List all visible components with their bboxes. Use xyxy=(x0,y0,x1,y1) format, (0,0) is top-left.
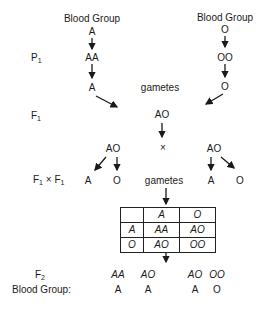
left-parent-label: Blood Group xyxy=(64,13,120,25)
gametes-label-mid: gametes xyxy=(145,175,183,187)
f1-label: F1 xyxy=(31,110,41,125)
arrow-diagonal-icon xyxy=(221,157,234,168)
f2-label: F2 xyxy=(35,269,45,284)
f1-cross-label: F1 × F1 xyxy=(33,174,64,189)
punnett-cell: OO xyxy=(180,238,216,253)
punnett-cell: AO xyxy=(144,238,180,253)
f1-genotype: AO xyxy=(155,109,169,121)
right-parent-gamete: O xyxy=(221,81,229,93)
f1-right-genotype: AO xyxy=(207,143,221,155)
f2-genotype: AA xyxy=(111,269,124,281)
gametes-label-top: gametes xyxy=(141,82,179,94)
f2-blood-group: A xyxy=(145,284,152,296)
arrow-diagonal-icon xyxy=(206,94,223,104)
p1-label: P1 xyxy=(31,52,42,67)
punnett-header-cell: A xyxy=(144,208,180,223)
right-parent-label: Blood Group xyxy=(197,12,253,24)
punnett-header-row: A O xyxy=(121,208,216,223)
punnett-row-header: O xyxy=(121,238,144,253)
left-parent-genotype: AA xyxy=(85,52,98,64)
f2-blood-group: A xyxy=(115,284,122,296)
arrow-diagonal-icon xyxy=(95,157,106,170)
punnett-cell: AO xyxy=(180,223,216,238)
punnett-header-cell: O xyxy=(180,208,216,223)
cross-symbol: × xyxy=(160,142,166,154)
f2-blood-group: O xyxy=(213,284,221,296)
f1-left-gamete-o: O xyxy=(113,175,121,187)
f2-genotype: AO xyxy=(141,269,155,281)
punnett-cell: AA xyxy=(144,223,180,238)
f2-genotype: AO xyxy=(188,269,202,281)
f1-right-gamete-a: A xyxy=(208,175,215,187)
punnett-corner-cell xyxy=(121,208,144,223)
blood-group-row-label: Blood Group: xyxy=(12,284,71,296)
right-parent-genotype: OO xyxy=(217,52,233,64)
punnett-square: A O A AA AO O AO OO xyxy=(120,207,216,253)
right-parent-phenotype: O xyxy=(221,24,229,36)
f2-genotype: OO xyxy=(209,269,225,281)
f1-left-genotype: AO xyxy=(106,143,120,155)
punnett-row: O AO OO xyxy=(121,238,216,253)
f1-right-gamete-o: O xyxy=(236,175,244,187)
f1-left-gamete-a: A xyxy=(85,175,92,187)
arrow-diagonal-icon xyxy=(96,96,117,107)
f2-blood-group: A xyxy=(192,284,199,296)
punnett-row: A AA AO xyxy=(121,223,216,238)
left-parent-gamete: A xyxy=(89,82,96,94)
left-parent-phenotype: A xyxy=(89,26,96,38)
punnett-row-header: A xyxy=(121,223,144,238)
